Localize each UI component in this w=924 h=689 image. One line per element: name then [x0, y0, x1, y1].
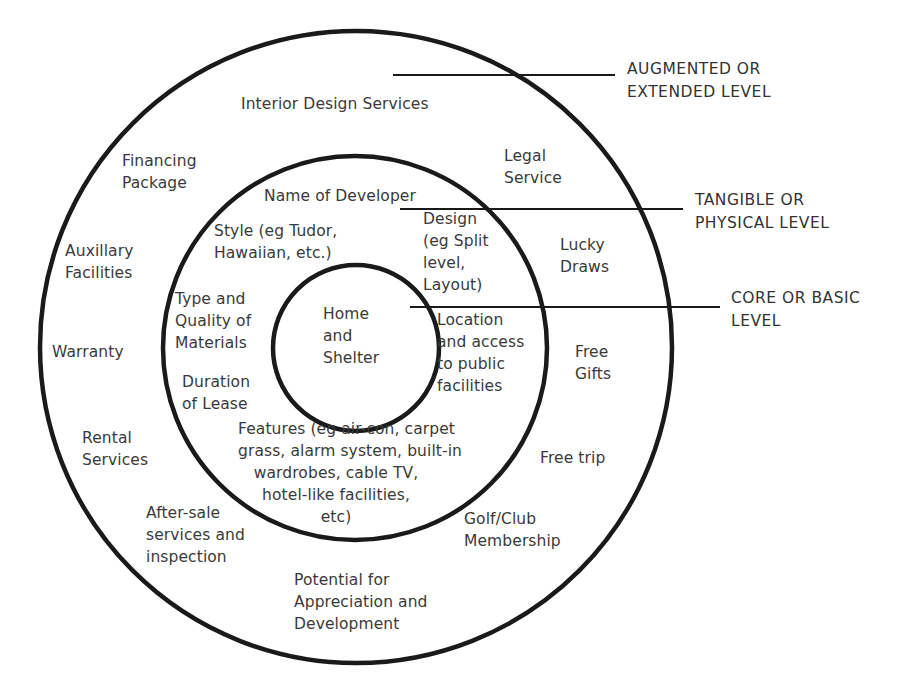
augmented-item-financing-package: Financing Package	[122, 150, 197, 194]
augmented-item-golf-club-membership: Golf/Club Membership	[464, 508, 561, 552]
tangible-item-design: Design (eg Split level, Layout)	[423, 208, 489, 296]
tangible-item-location-and-access: Location and access to public facilities	[437, 309, 524, 397]
augmented-item-potential-appreciation: Potential for Appreciation and Developme…	[294, 569, 428, 635]
augmented-item-rental-services: Rental Services	[82, 427, 148, 471]
augmented-item-lucky-draws: Lucky Draws	[560, 234, 609, 278]
level-label-tangible: TANGIBLE OR PHYSICAL LEVEL	[695, 189, 829, 235]
augmented-item-warranty: Warranty	[52, 341, 124, 363]
level-label-augmented: AUGMENTED OR EXTENDED LEVEL	[627, 58, 771, 104]
augmented-item-auxillary-facilities: Auxillary Facilities	[65, 240, 133, 284]
augmented-item-free-gifts: Free Gifts	[575, 341, 611, 385]
tangible-item-features: Features (eg air-con, carpet grass, alar…	[238, 418, 434, 528]
core-item-home-and-shelter: Home and Shelter	[323, 303, 379, 369]
augmented-item-free-trip: Free trip	[540, 447, 605, 469]
augmented-item-legal-service: Legal Service	[504, 145, 562, 189]
tangible-item-style: Style (eg Tudor, Hawaiian, etc.)	[214, 220, 337, 264]
augmented-item-interior-design: Interior Design Services	[241, 93, 429, 115]
level-label-core: CORE OR BASIC LEVEL	[731, 287, 860, 333]
tangible-item-duration-of-lease: Duration of Lease	[182, 371, 250, 415]
augmented-item-after-sale-services: After-sale services and inspection	[146, 502, 245, 568]
tangible-item-type-and-quality: Type and Quality of Materials	[175, 288, 251, 354]
tangible-item-name-of-developer: Name of Developer	[264, 185, 416, 207]
